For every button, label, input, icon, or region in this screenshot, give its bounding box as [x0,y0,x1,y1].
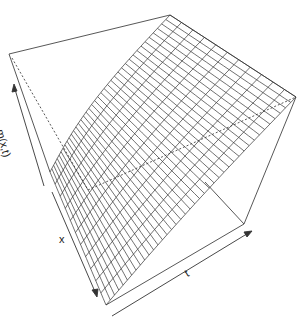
surface-mesh [50,15,296,305]
x-axis-label: x [59,233,65,245]
surface-plot [0,0,306,322]
